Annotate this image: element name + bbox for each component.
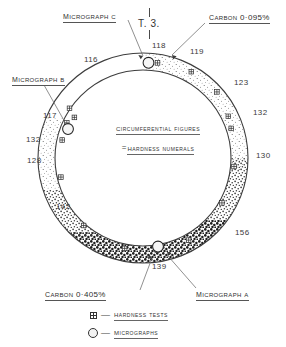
- hardness-marker: [186, 238, 191, 243]
- numeral-lower-left: 142: [56, 203, 71, 211]
- legend-label-hardness-tests: Hardness Tests: [114, 309, 168, 321]
- plate-title-tick-bottom: [149, 30, 150, 39]
- hardness-marker: [122, 246, 127, 251]
- centre-annotation: Circumferential Figures =Hardness Numera…: [96, 117, 220, 157]
- hardness-marker: [72, 115, 77, 120]
- hardness-marker: [226, 114, 231, 119]
- inner-circle: [55, 70, 231, 246]
- hardness-marker: [220, 201, 225, 206]
- micrograph-marker-a: [153, 241, 164, 252]
- centre-annotation-line-2: Hardness Numerals: [127, 143, 194, 155]
- numeral-lower-right: 156: [235, 229, 250, 237]
- hardness-marker: [81, 223, 86, 228]
- legend-dash-micrographs: —: [100, 328, 114, 338]
- numeral-bottom: 139: [152, 263, 167, 271]
- numeral-left-upper: 117: [43, 112, 57, 120]
- hardness-marker: [232, 164, 237, 169]
- hardness-marker: [60, 138, 65, 143]
- hardness-marker: [59, 175, 64, 180]
- hardness-marker: [189, 69, 194, 74]
- plate-title-text: T. 3.: [129, 18, 169, 29]
- centre-annotation-line-1: Circumferential Figures: [116, 123, 200, 135]
- numeral-right: 132: [253, 109, 268, 117]
- plate-title-tick-top: [149, 8, 150, 17]
- legend-dash-hardness: —: [100, 310, 114, 320]
- micrograph-symbol-icon: [86, 328, 100, 338]
- numeral-right-upper: 123: [234, 79, 249, 87]
- numeral-left: 132: [26, 136, 41, 144]
- plate-title: T. 3.: [129, 8, 169, 39]
- micrograph-marker-c: [143, 57, 154, 68]
- legend-row-hardness-tests: — Hardness Tests: [86, 306, 236, 324]
- numeral-upper-left: 116: [84, 56, 98, 64]
- leader-micrograph-a: [168, 256, 196, 288]
- hardness-test-symbol-icon: [86, 312, 100, 319]
- numeral-upper-right: 119: [190, 48, 204, 56]
- numeral-left-lower: 128: [27, 157, 42, 165]
- equals-symbol: =: [122, 143, 127, 152]
- micrograph-marker-b: [63, 124, 74, 135]
- hardness-marker: [155, 61, 160, 66]
- callout-micrograph-c: Micrograph C: [63, 11, 116, 23]
- callout-micrograph-b: Micrograph B: [12, 74, 65, 86]
- hardness-marker: [215, 90, 220, 95]
- hardness-marker: [67, 106, 72, 111]
- callout-carbon-bottom: Carbon 0·405%: [45, 289, 106, 301]
- callout-carbon-top: Carbon 0·095%: [209, 12, 270, 24]
- numeral-top: 118: [152, 42, 166, 50]
- legend: — Hardness Tests — Micrographs: [86, 306, 236, 342]
- hardness-marker: [229, 126, 234, 131]
- callout-micrograph-a: Micrograph A: [196, 289, 249, 301]
- centre-annotation-row-1: Circumferential Figures: [96, 117, 220, 137]
- numeral-right-lower: 130: [256, 152, 271, 160]
- legend-label-micrographs: Micrographs: [114, 327, 158, 339]
- figure-root: T. 3. Micrograph C Carbon 0·095% Microgr…: [0, 0, 286, 347]
- legend-row-micrographs: — Micrographs: [86, 324, 236, 342]
- centre-annotation-row-2: =Hardness Numerals: [96, 137, 220, 157]
